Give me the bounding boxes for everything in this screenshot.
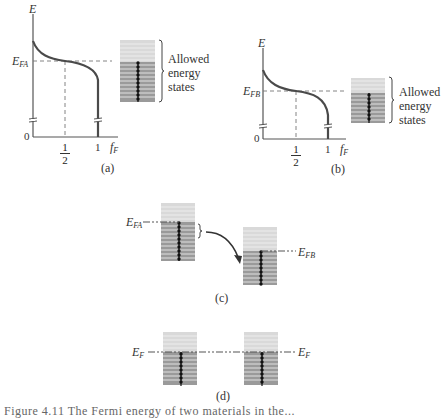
panel-c-left-band — [143, 203, 195, 261]
fermi-level-label-c-right: EFB — [298, 246, 315, 260]
fermi-level-label-a: EFA — [12, 55, 28, 69]
fermi-level-label-c-left: EFA — [126, 216, 142, 230]
allowed-states-label-a: Allowed energy states — [168, 52, 209, 94]
panel-label-d: (d) — [216, 390, 230, 402]
tick-half: 12 — [59, 142, 71, 165]
panel-c-right-band — [243, 227, 296, 286]
axis-y-label: E — [29, 3, 36, 15]
panel-d-right-band — [244, 332, 278, 386]
panel-label-b: (b) — [331, 163, 345, 175]
panel-a-band — [120, 40, 155, 102]
panel-label-c: (c) — [215, 292, 228, 304]
fermi-dirac-curve — [263, 70, 328, 139]
panel-label-a: (a) — [101, 162, 114, 174]
brace-icon — [389, 77, 394, 123]
allowed-states-label-b: Allowed energy states — [399, 85, 440, 127]
axis-x-label: fF — [340, 143, 348, 157]
transfer-arrow-icon — [206, 232, 238, 257]
origin-label: 0 — [24, 131, 30, 142]
fermi-level-label-d-left: EF — [132, 346, 144, 360]
panel-a-graph — [29, 14, 118, 137]
axis-y-label: E — [258, 37, 265, 49]
tick-one: 1 — [325, 144, 331, 155]
fermi-level-label-b: EFB — [243, 85, 260, 99]
fermi-level-label-d-right: EF — [298, 346, 310, 360]
fermi-dirac-curve — [33, 41, 98, 137]
brace-icon — [198, 224, 202, 238]
origin-label: 0 — [254, 133, 260, 144]
panel-b-band — [351, 78, 385, 123]
brace-icon — [159, 40, 164, 102]
figure-caption: Figure 4.11 The Fermi energy of two mate… — [4, 404, 295, 419]
panel-b-graph — [259, 48, 346, 139]
axis-x-label: fF — [110, 141, 118, 155]
tick-half: 12 — [290, 144, 302, 167]
panel-d-left-band — [163, 332, 197, 386]
tick-one: 1 — [95, 142, 101, 153]
